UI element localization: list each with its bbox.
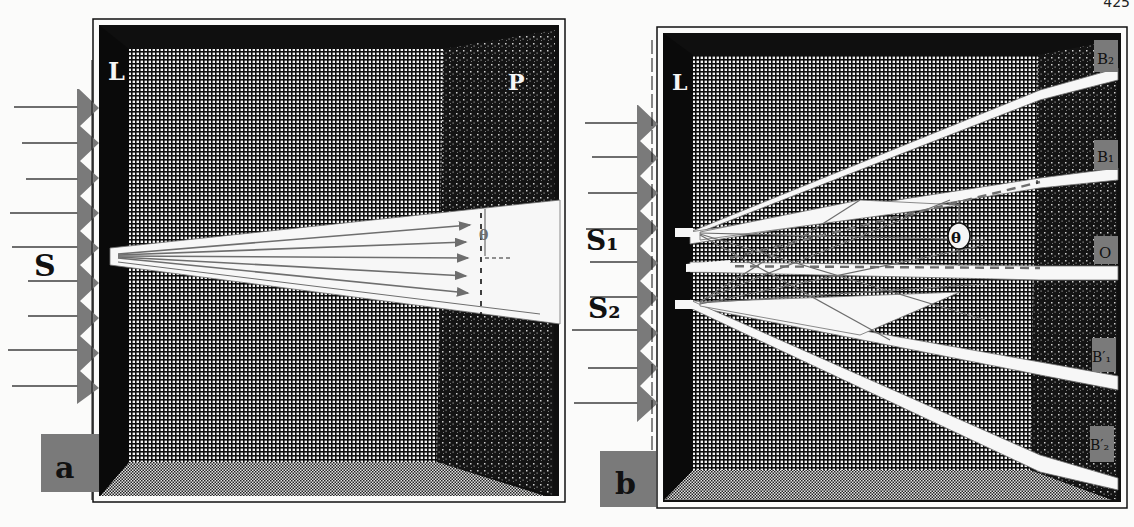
lens-label-a: L [108,57,125,86]
source2-label: S₂ [588,292,620,325]
source-label-a: S [34,248,56,283]
panel-label-b: b [615,466,636,501]
theta-label-a: θ [479,227,488,243]
theta-label-b: θ [951,229,961,247]
source1-label: S₁ [586,224,618,257]
lens-label-b: L [672,69,687,95]
beam-label-o: O [1099,244,1111,262]
beam-label-b1-prime: B′₁ [1092,349,1111,365]
beam-label-b2: B₂ [1097,50,1114,68]
slit-s1 [675,228,693,237]
incident-rays-b [572,123,638,403]
beam-label-b2-prime: B′₂ [1090,437,1109,453]
beam-label-b1: B₁ [1097,148,1114,166]
figure-a: θ L P S a [8,19,565,502]
grating-b [637,40,658,500]
plate-label: P [508,69,525,95]
slit-s2 [675,300,693,309]
figure-b: θ L B₂ B₁ O B′₁ B′₂ [572,27,1127,508]
panel-label-a: a [55,450,74,485]
incident-rays-a [8,107,78,386]
